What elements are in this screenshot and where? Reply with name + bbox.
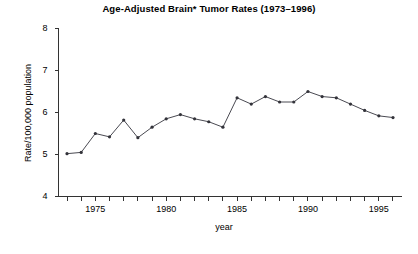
data-point-1988: [278, 100, 281, 103]
data-point-1977: [122, 118, 125, 121]
data-point-1982: [193, 117, 196, 120]
data-point-1991: [321, 95, 324, 98]
y-axis-ticks: [55, 29, 59, 197]
data-point-1976: [108, 135, 111, 138]
data-point-1979: [150, 126, 153, 129]
data-point-1987: [264, 95, 267, 98]
data-point-1992: [335, 96, 338, 99]
chart-figure: Age-Adjusted Brain* Tumor Rates (1973–19…: [0, 0, 418, 254]
data-point-1978: [136, 136, 139, 139]
data-point-1981: [179, 113, 182, 116]
data-series-line: [67, 92, 393, 154]
data-point-1974: [80, 151, 83, 154]
plot-area: [0, 0, 418, 254]
data-point-1990: [306, 90, 309, 93]
data-point-1983: [207, 120, 210, 123]
data-point-1994: [363, 109, 366, 112]
x-axis-ticks: [67, 197, 393, 201]
data-point-1973: [65, 152, 68, 155]
data-point-1989: [292, 100, 295, 103]
data-point-1984: [221, 126, 224, 129]
data-point-1986: [250, 103, 253, 106]
data-point-1980: [165, 117, 168, 120]
data-point-1993: [349, 103, 352, 106]
data-point-1985: [235, 96, 238, 99]
data-point-1996: [391, 116, 394, 119]
data-point-1995: [377, 114, 380, 117]
data-series-markers: [65, 90, 394, 155]
data-point-1975: [94, 132, 97, 135]
